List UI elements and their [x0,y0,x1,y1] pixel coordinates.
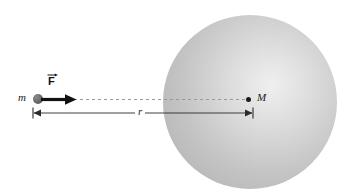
large-mass-label: M [257,92,266,103]
distance-label: r [135,106,145,117]
dimension-right-arrowhead [245,109,253,116]
force-arrow-head [65,94,77,105]
dimension-left-arrowhead [34,109,42,116]
sphere-center-dot [246,97,251,102]
small-mass-label: m [18,92,26,103]
force-label-text: F [48,76,55,87]
large-mass-sphere [163,15,337,189]
line-of-action-dashed [74,99,250,100]
physics-figure-gravitation: F m M r [0,0,346,194]
force-label-group: F [47,72,61,88]
